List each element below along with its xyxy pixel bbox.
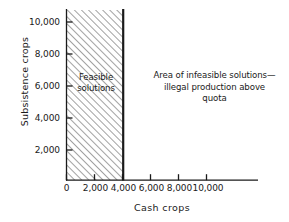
y-tick-label-8000: 8,000 xyxy=(18,49,60,60)
feasible-solutions-line-1: Feasible xyxy=(69,72,123,83)
x-tick-label-10000: 10,000 xyxy=(185,183,231,193)
infeasible-solutions-label: Area of infeasible solutions— illegal pr… xyxy=(140,70,289,105)
y-tick-label-4000: 4,000 xyxy=(18,113,60,124)
infeasible-solutions-line-1: Area of infeasible solutions— xyxy=(140,70,289,82)
y-tick-label-10000: 10,000 xyxy=(18,17,60,28)
feasible-region xyxy=(67,10,123,180)
y-tick-label-2000: 2,000 xyxy=(18,145,60,156)
y-tick-label-text: 2,000 xyxy=(18,145,60,155)
chart-figure: Subsistence crops 10,000 8,000 6,000 4,0… xyxy=(0,0,289,222)
y-tick-label-6000: 6,000 xyxy=(18,81,60,92)
y-tick-label-text: 8,000 xyxy=(18,49,60,59)
y-tick-label-text: 4,000 xyxy=(18,113,60,123)
feasible-solutions-label: Feasible solutions xyxy=(69,72,123,94)
y-tick-label-text: 10,000 xyxy=(18,17,60,27)
y-tick-label-text: 6,000 xyxy=(18,81,60,91)
infeasible-solutions-line-2: illegal production above xyxy=(140,82,289,94)
feasible-solutions-line-2: solutions xyxy=(69,83,123,94)
infeasible-solutions-line-3: quota xyxy=(140,93,289,105)
x-axis-title: Cash crops xyxy=(66,202,258,213)
